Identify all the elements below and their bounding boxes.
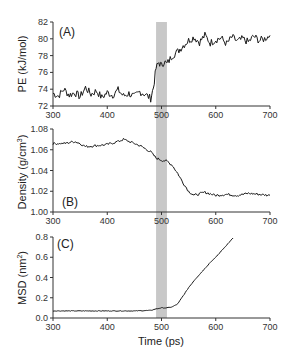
y-tick-label: 74 — [38, 84, 48, 94]
y-tick-label: 76 — [38, 67, 48, 77]
y-tick-label: 0.8 — [35, 232, 48, 242]
x-axis-label: Time (ps) — [138, 335, 184, 347]
x-tick-label: 600 — [208, 216, 223, 226]
x-tick-label: 600 — [208, 110, 223, 120]
panel-label-b: (B) — [62, 195, 78, 209]
y-tick-label: 1.02 — [30, 186, 48, 196]
panel-label-c: (C) — [57, 237, 74, 251]
y-tick-label: 82 — [38, 17, 48, 27]
x-tick-label: 400 — [100, 110, 115, 120]
y-axis-label-b: Density (g/cm3) — [16, 135, 28, 210]
x-tick-label: 700 — [262, 110, 277, 120]
data-line-msd — [53, 238, 233, 311]
y-tick-label: 0.4 — [35, 273, 48, 283]
panel-label-a: (A) — [59, 25, 75, 39]
y-axis-label-b-main: Density (g/cm — [16, 142, 28, 209]
y-tick-label: 1.08 — [30, 124, 48, 134]
y-axis-label-a: PE (kJ/mol) — [16, 36, 28, 93]
highlight-band — [156, 22, 167, 318]
panel-b: 1.001.021.041.061.08300400500600700 — [30, 124, 277, 226]
x-tick-label: 300 — [45, 110, 60, 120]
y-tick-label: 1.04 — [30, 166, 48, 176]
x-tick-label: 400 — [100, 216, 115, 226]
x-tick-label: 500 — [154, 322, 169, 332]
x-tick-label: 400 — [100, 322, 115, 332]
y-tick-label: 1.06 — [30, 145, 48, 155]
stacked-line-charts: 7274767880823004005006007001.001.021.041… — [0, 0, 291, 362]
x-tick-label: 700 — [262, 216, 277, 226]
x-tick-label: 300 — [45, 216, 60, 226]
y-axis-label-c-end: ) — [16, 251, 28, 255]
y-axis-label-b-end: ) — [16, 135, 28, 139]
y-axis-label-c: MSD (nm2) — [16, 251, 28, 305]
y-tick-label: 78 — [38, 51, 48, 61]
y-tick-label: 80 — [38, 34, 48, 44]
x-tick-label: 500 — [154, 216, 169, 226]
y-tick-label: 0.2 — [35, 293, 48, 303]
x-tick-label: 600 — [208, 322, 223, 332]
y-axis-label-c-main: MSD (nm — [16, 259, 28, 305]
x-tick-label: 300 — [45, 322, 60, 332]
x-tick-label: 500 — [154, 110, 169, 120]
y-tick-label: 0.6 — [35, 252, 48, 262]
x-tick-label: 700 — [262, 322, 277, 332]
